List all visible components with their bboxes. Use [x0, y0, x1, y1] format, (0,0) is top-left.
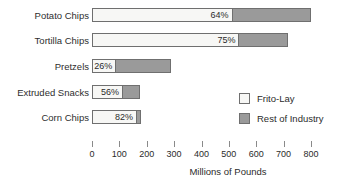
stacked-bar-chart: Potato ChipsTortilla ChipsPretzelsExtrud… — [0, 0, 346, 191]
bar-segment-frito-lay: 64% — [92, 8, 232, 22]
bar-segment-rest-of-industry — [232, 8, 311, 22]
bar-segment-rest-of-industry — [122, 85, 140, 99]
x-axis-tick — [311, 141, 312, 147]
bar-row: 75% — [92, 33, 288, 47]
legend-label: Frito-Lay — [257, 93, 294, 104]
bar-segment-rest-of-industry — [238, 33, 287, 47]
legend-swatch — [239, 93, 250, 104]
bar-row: 26% — [92, 59, 171, 73]
bar-percent-label: 56% — [101, 86, 119, 98]
bar-segment-rest-of-industry — [115, 59, 171, 73]
legend-label: Rest of Industry — [257, 113, 324, 124]
category-label-potato-chips: Potato Chips — [0, 9, 89, 23]
bar-row: 64% — [92, 8, 311, 22]
category-label-corn-chips: Corn Chips — [0, 111, 89, 125]
x-axis-tick-label: 800 — [291, 149, 331, 160]
bar-segment-frito-lay: 82% — [92, 110, 136, 124]
bar-segment-frito-lay: 26% — [92, 59, 115, 73]
x-axis-title: Millions of Pounds — [0, 166, 346, 177]
x-axis-tick — [229, 141, 230, 147]
legend-item: Frito-Lay — [239, 90, 324, 106]
bar-row: 82% — [92, 110, 141, 124]
x-axis-tick — [92, 141, 93, 147]
x-axis — [92, 141, 311, 147]
bar-percent-label: 82% — [115, 111, 133, 123]
bar-percent-label: 26% — [94, 60, 112, 72]
category-label-tortilla-chips: Tortilla Chips — [0, 34, 89, 48]
x-axis-tick — [256, 141, 257, 147]
legend-swatch — [239, 113, 250, 124]
x-axis-tick — [174, 141, 175, 147]
x-axis-tick — [284, 141, 285, 147]
bar-segment-frito-lay: 56% — [92, 85, 122, 99]
category-label-pretzels: Pretzels — [0, 60, 89, 74]
x-axis-tick — [147, 141, 148, 147]
x-axis-tick — [119, 141, 120, 147]
bar-segment-rest-of-industry — [136, 110, 141, 124]
bar-segment-frito-lay: 75% — [92, 33, 238, 47]
chart-legend: Frito-LayRest of Industry — [239, 90, 324, 130]
category-label-extruded-snacks: Extruded Snacks — [0, 86, 89, 100]
bar-row: 56% — [92, 85, 140, 99]
bar-percent-label: 64% — [211, 9, 229, 21]
x-axis-tick — [202, 141, 203, 147]
legend-item: Rest of Industry — [239, 110, 324, 126]
bar-percent-label: 75% — [217, 34, 235, 46]
